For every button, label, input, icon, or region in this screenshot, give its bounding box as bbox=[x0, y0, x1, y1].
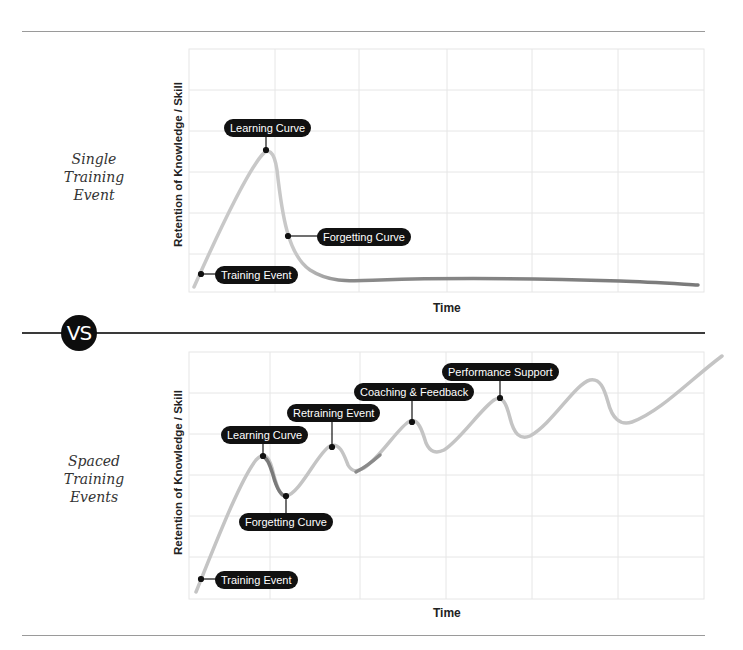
forgetting-segment bbox=[262, 456, 286, 496]
annotation-forgetting-curve: Forgetting Curve bbox=[239, 513, 333, 531]
bottom-rule bbox=[22, 635, 705, 636]
annotation-coaching-feedback: Coaching & Feedback bbox=[354, 383, 474, 401]
x-axis-label: Time bbox=[433, 606, 461, 620]
annotation-training-event: Training Event bbox=[215, 571, 298, 589]
annotation-learning-curve: Learning Curve bbox=[221, 426, 308, 444]
spaced-events-chart bbox=[0, 0, 743, 650]
annotation-retraining-event: Retraining Event bbox=[287, 404, 380, 422]
annotation-performance-support: Performance Support bbox=[442, 363, 559, 381]
